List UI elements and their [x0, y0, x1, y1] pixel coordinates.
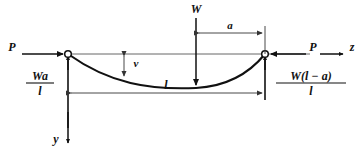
span-dimension-label: l	[164, 78, 168, 92]
left-pin-support-hinge-icon	[65, 51, 72, 58]
deflection-label: v	[134, 57, 139, 69]
beam-column-diagram: P P z y W a v l Wa l W(l − a) l	[0, 0, 362, 158]
reaction-right-numerator: W(l − a)	[290, 69, 331, 83]
axis-z-label: z	[349, 40, 355, 54]
a-dimension-label: a	[227, 19, 233, 31]
transverse-load-label: W	[191, 2, 203, 16]
reaction-left-numerator: Wa	[32, 69, 48, 83]
axial-load-right-label: P	[309, 40, 317, 54]
axial-load-left-label: P	[8, 40, 16, 54]
reaction-right-denominator: l	[309, 84, 313, 98]
reaction-left-denominator: l	[38, 84, 42, 98]
axis-y-label: y	[51, 132, 59, 146]
diagram-canvas: P P z y W a v l Wa l W(l − a) l	[0, 0, 362, 158]
